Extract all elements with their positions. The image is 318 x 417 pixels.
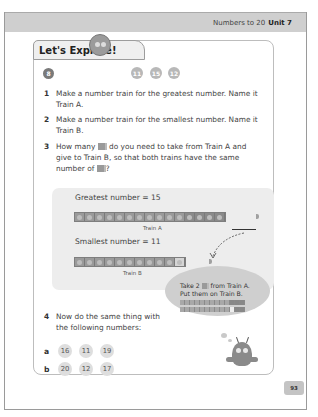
mascot-icon — [89, 34, 111, 56]
question-number-badge: 8 — [43, 68, 54, 79]
bracket-line — [232, 229, 256, 230]
cube — [115, 258, 125, 266]
train-b-caption: Train B — [123, 270, 142, 276]
cube — [240, 300, 245, 305]
cube — [165, 258, 175, 266]
cube-icon — [97, 165, 106, 172]
cube — [75, 258, 85, 266]
step-number: 4 — [44, 311, 49, 322]
step-4: 4 Now do the same thing with the followi… — [56, 311, 166, 333]
number-chip: 16 — [58, 344, 72, 358]
cube — [165, 213, 175, 221]
number-circle: 11 — [131, 67, 143, 79]
page-header: Numbers to 20 Unit 7 — [5, 12, 306, 32]
number-chip: 17 — [100, 362, 114, 376]
section-title: Numbers to 20 — [213, 19, 265, 27]
smallest-number-label: Smallest number = 11 — [75, 237, 161, 246]
step-2: 2 Make a number train for the smallest n… — [56, 114, 276, 136]
monster-mascot-icon — [232, 342, 252, 366]
cube — [145, 258, 155, 266]
thought-dot — [221, 333, 227, 338]
train-a-caption: Train A — [143, 225, 162, 231]
cube — [105, 258, 115, 266]
choices-row-a: a 16 11 19 — [56, 344, 121, 358]
step-text: ? — [106, 164, 110, 173]
cube — [175, 258, 185, 266]
cube-icon — [202, 283, 209, 289]
step-text: Make a number train for the greatest num… — [56, 89, 258, 109]
step-number: 1 — [44, 88, 49, 99]
choices-row-b: b 20 12 17 — [56, 362, 121, 376]
step-number: 3 — [44, 141, 49, 152]
number-chip: 20 — [58, 362, 72, 376]
step-text: Make a number train for the smallest num… — [56, 115, 258, 135]
cube — [185, 213, 195, 221]
number-circle: 15 — [150, 67, 162, 79]
cube — [205, 213, 215, 221]
cube — [155, 258, 165, 266]
cube — [95, 213, 105, 221]
cube — [175, 213, 185, 221]
step-text: How many — [56, 142, 95, 151]
cube — [115, 213, 125, 221]
number-circle: 12 — [168, 67, 180, 79]
cube — [215, 213, 225, 221]
cube — [135, 258, 145, 266]
cube — [105, 213, 115, 221]
page-number: 93 — [284, 381, 304, 395]
cube — [195, 213, 205, 221]
cube-icon — [98, 143, 107, 150]
cube — [145, 213, 155, 221]
cube — [75, 213, 85, 221]
number-chip: 12 — [79, 362, 93, 376]
cube — [95, 258, 105, 266]
train-a — [74, 212, 226, 222]
bubble-text: Take 2 — [180, 282, 200, 289]
mini-train-a — [180, 300, 245, 305]
row-letter: b — [44, 365, 58, 374]
cube — [155, 213, 165, 221]
mini-train-b — [180, 307, 245, 312]
thought-dot — [228, 339, 232, 342]
train-tip — [209, 259, 212, 264]
train-tip — [256, 214, 259, 219]
number-chip: 11 — [79, 344, 93, 358]
cube — [85, 213, 95, 221]
bubble-line-1: Take 2 from Train A. — [180, 282, 250, 290]
number-chip: 19 — [100, 344, 114, 358]
unit-label: Unit 7 — [268, 19, 292, 27]
step-1: 1 Make a number train for the greatest n… — [56, 88, 276, 110]
cube — [135, 213, 145, 221]
row-letter: a — [44, 347, 58, 356]
train-b — [74, 257, 186, 267]
cube — [85, 258, 95, 266]
step-3: 3 How many do you need to take from Trai… — [56, 141, 256, 174]
cube — [125, 213, 135, 221]
step-number: 2 — [44, 114, 49, 125]
cube — [125, 258, 135, 266]
bubble-text: from Train A. — [211, 282, 250, 289]
cube — [240, 307, 245, 312]
step-text: Now do the same thing with the following… — [56, 312, 160, 332]
bubble-line-2: Put them on Train B. — [180, 290, 243, 298]
greatest-number-label: Greatest number = 15 — [75, 193, 161, 202]
